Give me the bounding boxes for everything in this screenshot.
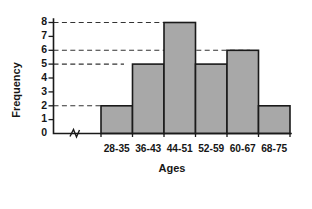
y-tick-label-5: 5 xyxy=(41,57,47,69)
y-tick-label-8: 8 xyxy=(41,15,47,27)
x-tick-label-28-35: 28-35 xyxy=(104,143,130,154)
x-tick-label-36-43: 36-43 xyxy=(135,143,161,154)
x-tick-label-68-75: 68-75 xyxy=(261,143,287,154)
bar-68-75 xyxy=(259,106,291,134)
bars-group xyxy=(101,23,290,134)
bar-36-43 xyxy=(133,64,165,133)
bar-44-51 xyxy=(164,23,196,134)
y-axis-title: Frequency xyxy=(10,61,22,118)
bar-28-35 xyxy=(101,106,133,134)
y-tick-label-1: 1 xyxy=(41,112,47,124)
x-tick-label-44-51: 44-51 xyxy=(167,143,193,154)
histogram-chart: Frequency 8 7 6 5 4 3 2 1 0 xyxy=(0,0,312,209)
y-tick-label-4: 4 xyxy=(41,71,47,83)
bar-52-59 xyxy=(196,64,228,133)
y-tick-label-2: 2 xyxy=(41,99,47,111)
x-tick-label-52-59: 52-59 xyxy=(198,143,224,154)
chart-canvas: Frequency 8 7 6 5 4 3 2 1 0 xyxy=(0,0,312,209)
y-tick-labels: 8 7 6 5 4 3 2 1 0 xyxy=(41,15,47,138)
x-tick-label-60-67: 60-67 xyxy=(230,143,256,154)
x-tick-labels: 28-35 36-43 44-51 52-59 60-67 68-75 xyxy=(104,143,288,154)
x-axis-title: Ages xyxy=(159,162,186,174)
y-tick-label-7: 7 xyxy=(41,29,47,41)
x-axis-break-icon xyxy=(70,130,80,138)
y-tick-label-6: 6 xyxy=(41,43,47,55)
bar-60-67 xyxy=(227,50,259,133)
y-tick-label-3: 3 xyxy=(41,85,47,97)
y-tick-label-0: 0 xyxy=(41,126,47,138)
